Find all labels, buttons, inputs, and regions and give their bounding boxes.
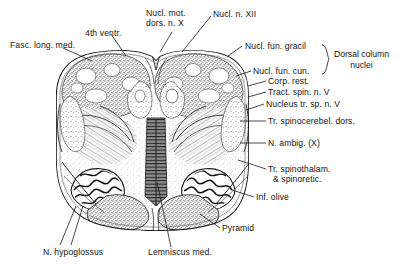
leader-corp-rest — [248, 81, 266, 86]
label-4th-ventr: 4th ventr. — [85, 28, 121, 38]
label-dorsal-column-nuclei: Dorsal column nuclei — [334, 49, 389, 71]
label-nucleus-tr-sp-n-v: Nucleus tr. sp. n. V — [266, 99, 340, 109]
label-n-hypoglossus: N. hypoglossus — [43, 247, 103, 257]
label-pyramid: Pyramid — [222, 223, 254, 233]
leader-n-hypoglossus-a — [60, 206, 76, 245]
label-fasc-long-med: Fasc. long. med. — [10, 40, 75, 50]
label-nucl-n-xii: Nucl. n. XII — [213, 9, 256, 19]
label-nucl-mot-dors-n-x: Nucl. mot. dors. n. X — [146, 8, 186, 29]
label-nucl-fun-gracil: Nucl. fun. gracil — [245, 41, 306, 51]
label-lemniscus-med: Lemniscus med. — [148, 247, 212, 257]
leader-nucl-n-xii — [182, 16, 211, 52]
leader-nucl-fun-gracil — [228, 46, 242, 56]
medial-lemniscus-raphe — [145, 118, 167, 206]
label-tr-spinothalam: Tr. spinothalam. & spinoretic. — [268, 164, 330, 185]
leader-nucl-mot-dors-n-x — [160, 32, 172, 52]
anatomy-figure: Fasc. long. med. 4th ventr. Nucl. mot. d… — [0, 0, 418, 273]
label-tract-spin-n-v: Tract. spin. n. V — [268, 87, 330, 97]
label-inf-olive: Inf. olive — [256, 192, 289, 202]
dorsal-column-brace — [322, 45, 329, 74]
label-tr-spinocerebel-dors: Tr. spinocerebel. dors. — [268, 116, 355, 126]
section-body — [50, 44, 256, 238]
label-nucl-fun-cun: Nucl. fun. cun. — [253, 66, 309, 76]
leader-tract-spin-n-v — [248, 92, 266, 97]
label-n-ambig-x: N. ambig. (X) — [268, 138, 320, 148]
label-corp-rest: Corp. rest. — [268, 76, 309, 86]
